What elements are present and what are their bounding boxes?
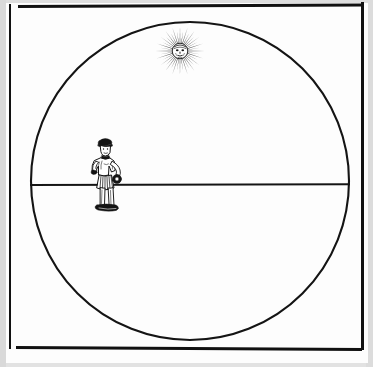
illustration-page: [0, 0, 373, 367]
frame-right-rule: [361, 2, 364, 350]
sun-icon: [154, 25, 206, 77]
standing-man-figure: [84, 134, 128, 220]
frame-left-rule: [9, 4, 11, 349]
